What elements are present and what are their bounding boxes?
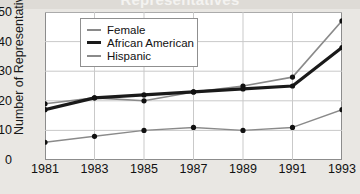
- x-tick-label: 1985: [118, 162, 170, 176]
- x-tick-label: 1989: [217, 162, 269, 176]
- y-tick-label: 10: [0, 123, 12, 137]
- legend-item-hispanic[interactable]: Hispanic: [81, 49, 197, 62]
- legend-label-hispanic: Hispanic: [107, 50, 151, 62]
- data-point: [141, 92, 146, 97]
- x-tick-label: 1993: [316, 162, 360, 176]
- chart-legend: Female African American Hispanic: [80, 18, 198, 67]
- legend-swatch-hispanic: [87, 55, 101, 57]
- legend-label-female: Female: [107, 24, 145, 36]
- legend-item-female[interactable]: Female: [81, 23, 197, 36]
- data-point: [240, 86, 245, 91]
- data-point: [191, 125, 196, 130]
- chart-title: Representatives: [0, 0, 360, 9]
- data-point: [45, 101, 48, 106]
- data-point: [240, 128, 245, 133]
- x-tick-label: 1991: [267, 162, 319, 176]
- legend-swatch-female: [87, 29, 101, 31]
- data-point: [45, 140, 48, 145]
- y-tick-label: 0: [0, 153, 12, 167]
- x-tick-label: 1987: [168, 162, 220, 176]
- legend-swatch-african-american: [87, 41, 101, 44]
- y-tick-label: 40: [0, 35, 12, 49]
- chart-title-band: Representatives: [0, 0, 360, 9]
- data-point: [92, 134, 97, 139]
- data-point: [290, 83, 295, 88]
- legend-label-african-american: African American: [107, 37, 194, 49]
- y-axis-label: Number of Representatives: [12, 0, 26, 144]
- data-point: [191, 89, 196, 94]
- legend-item-african-american[interactable]: African American: [81, 36, 197, 49]
- y-tick-label: 20: [0, 94, 12, 108]
- data-point: [141, 128, 146, 133]
- y-tick-label: 30: [0, 64, 12, 78]
- data-point: [290, 75, 295, 80]
- x-tick-label: 1981: [19, 162, 71, 176]
- data-point: [141, 98, 146, 103]
- line-chart-figure: Representatives Number of Representative…: [0, 0, 360, 194]
- y-tick-label: 50: [0, 5, 12, 19]
- data-point: [290, 125, 295, 130]
- data-point: [339, 107, 342, 112]
- data-point: [92, 95, 97, 100]
- x-tick-label: 1983: [69, 162, 121, 176]
